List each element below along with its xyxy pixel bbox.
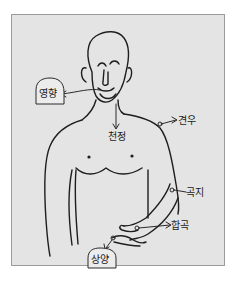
mouth (98, 88, 114, 91)
nose (103, 70, 108, 85)
left-inner-arm (69, 170, 72, 245)
label-cheonjeong: 천정 (108, 131, 126, 142)
hapgok-point (135, 226, 139, 230)
hapgok-leader (139, 225, 170, 228)
left-inner-arm-2 (75, 170, 78, 244)
gokji-point (170, 188, 174, 192)
label-gyeonu: 견우 (178, 115, 196, 126)
right-forearm-upper (124, 184, 170, 226)
label-sangyang: 상양 (91, 254, 109, 265)
left-eye (98, 63, 106, 66)
gokji-leader (174, 190, 186, 192)
body-diagram: 영향 천정 견우 곡지 합곡 상양 (0, 0, 236, 282)
left-ear (82, 68, 87, 82)
label-hapgok: 합곡 (171, 220, 189, 231)
right-eye (110, 61, 119, 64)
neck-left (82, 100, 96, 120)
right-forearm-lower (130, 198, 178, 240)
neck-right (118, 100, 124, 114)
label-yeonghyang: 영향 (39, 88, 57, 99)
right-ear (127, 68, 132, 82)
chest-line (76, 168, 142, 174)
left-shoulder (45, 120, 82, 256)
right-shoulder (124, 114, 179, 214)
right-hand (112, 225, 146, 246)
left-nipple (87, 155, 90, 158)
right-nipple (130, 154, 133, 157)
label-gokji: 곡지 (186, 187, 204, 198)
